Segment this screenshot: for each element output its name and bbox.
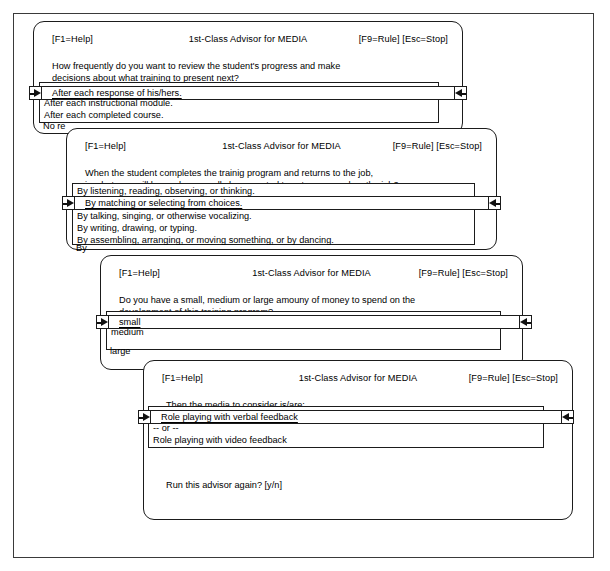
arrow-right-icon (62, 196, 75, 210)
window-3-selected-option[interactable]: small (108, 315, 520, 329)
window-3-header: [F1=Help] 1st-Class Advisor for MEDIA [F… (101, 268, 522, 282)
window-2-prompt-line-1: When the student completes the trainig p… (85, 167, 373, 180)
window-2-option-list[interactable]: By listening, reading, observing, or thi… (72, 183, 475, 245)
arrow-left-icon (488, 196, 501, 210)
window-2-option-6[interactable]: By (76, 242, 87, 255)
rule-stop-key-hints[interactable]: [F9=Rule] [Esc=Stop] (393, 141, 482, 151)
window-1-option-4[interactable]: No re (43, 120, 65, 133)
window-2-selected-option-label: By matching or selecting from choices. (85, 197, 242, 210)
arrow-left-icon (454, 86, 467, 100)
window-3-option-3[interactable]: large (110, 345, 130, 358)
arrow-right-icon (96, 315, 109, 329)
arrow-right-icon (138, 410, 151, 424)
window-4-selected-option-label: Role playing with verbal feedback (161, 411, 298, 424)
arrow-left-icon (519, 315, 532, 329)
arrow-left-icon (561, 410, 574, 424)
scanned-page: [F1=Help] 1st-Class Advisor for MEDIA [F… (0, 0, 610, 571)
window-2-selected-option[interactable]: By matching or selecting from choices. (74, 196, 489, 210)
window-4-option-3[interactable]: Role playing with video feedback (153, 434, 287, 447)
window-2-option-5[interactable]: By assembling, arranging, or moving some… (77, 234, 334, 247)
window-3-prompt-line-1: Do you have a small, medium or large amo… (119, 294, 415, 307)
window-2-header: [F1=Help] 1st-Class Advisor for MEDIA [F… (67, 141, 496, 155)
rule-stop-key-hints[interactable]: [F9=Rule] [Esc=Stop] (419, 268, 508, 278)
window-1-prompt-line-1: How frequently do you want to review the… (52, 60, 340, 73)
rule-stop-key-hints[interactable]: [F9=Rule] [Esc=Stop] (469, 373, 558, 383)
window-3-selected-option-label: small (119, 316, 140, 329)
window-2-option-3[interactable]: By talking, singing, or otherwise vocali… (77, 210, 252, 223)
window-1-header: [F1=Help] 1st-Class Advisor for MEDIA [F… (34, 34, 462, 48)
arrow-right-icon (29, 86, 42, 100)
window-1-selected-option-label: After each response of his/hers. (52, 87, 182, 100)
window-1-selected-option[interactable]: After each response of his/hers. (41, 86, 455, 100)
window-2-option-4[interactable]: By writing, drawing, or typing. (77, 222, 197, 235)
window-4-header: [F1=Help] 1st-Class Advisor for MEDIA [F… (144, 373, 572, 387)
window-4-selected-option[interactable]: Role playing with verbal feedback (150, 410, 562, 424)
window-4-footer-prompt: Run this advisor again? [y/n] (166, 480, 282, 490)
rule-stop-key-hints[interactable]: [F9=Rule] [Esc=Stop] (359, 34, 448, 44)
